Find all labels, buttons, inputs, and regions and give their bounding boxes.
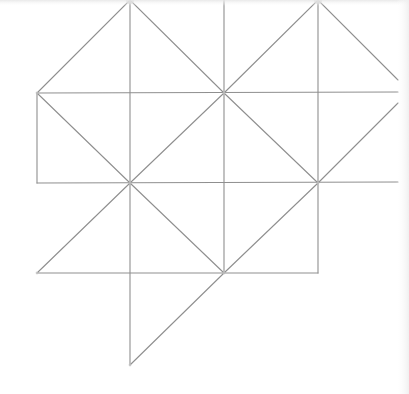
vertex-bottom-left [36, 272, 39, 275]
vertex-center-upper [223, 92, 226, 95]
vertex-left-corner [36, 92, 39, 95]
canvas-background [0, 0, 409, 394]
vertex-right-lower [317, 182, 320, 185]
vertex-center-lower [129, 182, 132, 185]
tangram-line-diagram [0, 0, 409, 394]
vertex-bottom-tip [129, 364, 132, 367]
scan-shadow-top [0, 0, 409, 6]
scan-shadow-right [396, 0, 409, 394]
vertex-bottom-center [223, 272, 226, 275]
